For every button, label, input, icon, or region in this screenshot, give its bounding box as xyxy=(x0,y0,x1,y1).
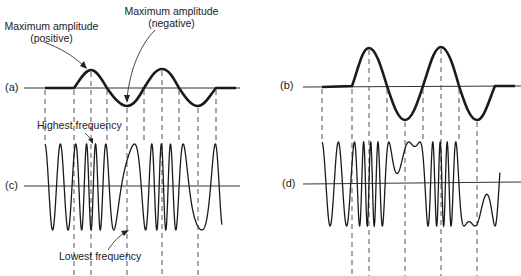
panel-label-d: (d) xyxy=(282,177,295,189)
label-highest-frequency: Highest frequency xyxy=(37,119,122,131)
fm-wave-c xyxy=(45,144,222,230)
panel-label-a: (a) xyxy=(5,81,18,93)
panel-label-b: (b) xyxy=(280,79,293,91)
panel-d xyxy=(303,142,521,226)
label-max-negative: Maximum amplitude (negative) xyxy=(124,5,219,29)
label-max-negative-line2: (negative) xyxy=(124,17,219,29)
label-lowest-frequency: Lowest frequency xyxy=(59,250,141,262)
panel-a xyxy=(24,30,240,276)
arrow-max-positive xyxy=(44,42,84,66)
axis-d xyxy=(303,182,521,184)
label-max-positive-line1: Maximum amplitude xyxy=(4,20,99,32)
panel-label-c: (c) xyxy=(5,179,18,191)
modulating-wave-b xyxy=(322,47,515,120)
label-max-positive: Maximum amplitude (positive) xyxy=(4,20,99,44)
panel-c xyxy=(24,144,240,230)
label-max-negative-line1: Maximum amplitude xyxy=(124,5,219,17)
label-max-positive-line2: (positive) xyxy=(4,32,99,44)
